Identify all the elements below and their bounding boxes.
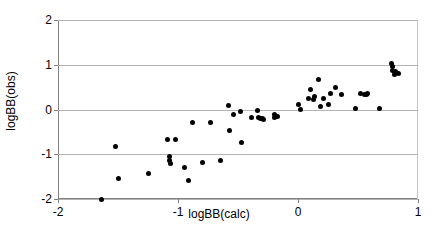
data-point xyxy=(316,77,321,82)
data-point xyxy=(249,115,254,120)
tick-y xyxy=(54,20,58,21)
data-point xyxy=(226,103,231,108)
gridline-y xyxy=(58,154,418,155)
data-point xyxy=(321,96,326,101)
gridline-y xyxy=(58,199,418,200)
data-point xyxy=(231,112,236,117)
tick-y xyxy=(54,65,58,66)
data-point xyxy=(239,140,244,145)
y-axis-title: logBB(obs) xyxy=(4,56,18,146)
data-point xyxy=(339,92,344,97)
data-point xyxy=(208,120,213,125)
y-tick-label: 2 xyxy=(30,13,52,27)
y-tick-label: 1 xyxy=(30,58,52,72)
tick-y xyxy=(54,199,58,200)
data-point xyxy=(182,165,187,170)
gridline-y xyxy=(58,65,418,66)
scatter-chart: -2-101 -2-1012 logBB(calc) logBB(obs) xyxy=(0,0,438,235)
data-point xyxy=(296,102,301,107)
data-point xyxy=(333,85,338,90)
y-tick-label: -1 xyxy=(30,147,52,161)
data-point xyxy=(377,106,382,111)
data-point xyxy=(116,176,121,181)
y-tick-label: 0 xyxy=(30,103,52,117)
tick-x xyxy=(298,199,299,203)
tick-x xyxy=(58,199,59,203)
data-point xyxy=(200,160,205,165)
tick-y xyxy=(54,110,58,111)
data-point xyxy=(190,120,195,125)
x-axis-title: logBB(calc) xyxy=(0,207,438,221)
data-point xyxy=(308,87,313,92)
data-point xyxy=(275,114,280,119)
data-point xyxy=(255,108,260,113)
gridline-y xyxy=(58,20,418,21)
y-tick-label: -2 xyxy=(30,192,52,206)
tick-y xyxy=(54,154,58,155)
data-point xyxy=(261,117,266,122)
data-point xyxy=(113,144,118,149)
data-point xyxy=(99,197,104,202)
data-point xyxy=(326,102,331,107)
tick-x xyxy=(418,199,419,203)
tick-x xyxy=(178,199,179,203)
data-point xyxy=(146,171,151,176)
data-point xyxy=(312,94,317,99)
